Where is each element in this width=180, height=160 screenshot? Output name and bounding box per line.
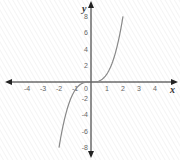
y-tick-label: -2 bbox=[82, 95, 88, 102]
y-tick-label: 6 bbox=[84, 29, 88, 36]
y-axis-up-arrow-icon bbox=[88, 1, 94, 8]
x-tick-label: 1 bbox=[105, 85, 109, 92]
y-tick-label: 2 bbox=[84, 62, 88, 69]
y-axis-down-arrow-icon bbox=[88, 151, 94, 158]
plot-area: -4-3-2-1012348642-2-4-6-8 x y bbox=[0, 0, 180, 160]
x-tick-label: -2 bbox=[56, 85, 62, 92]
y-axis-label: y bbox=[81, 3, 87, 14]
x-axis-left-arrow-icon bbox=[5, 79, 12, 85]
y-tick-label: -8 bbox=[82, 144, 88, 151]
x-tick-label: -4 bbox=[24, 85, 30, 92]
cubic-function-graph: -4-3-2-1012348642-2-4-6-8 x y bbox=[0, 0, 180, 160]
x-tick-label: 4 bbox=[153, 85, 157, 92]
x-tick-label: 2 bbox=[121, 85, 125, 92]
axes bbox=[5, 1, 178, 158]
y-tick-label: -6 bbox=[82, 128, 88, 135]
y-tick-label: 4 bbox=[84, 46, 88, 53]
origin-label: 0 bbox=[84, 85, 88, 92]
y-tick-label: -4 bbox=[82, 111, 88, 118]
x-axis-label: x bbox=[169, 84, 175, 95]
x-tick-label: -3 bbox=[40, 85, 46, 92]
x-tick-label: 3 bbox=[137, 85, 141, 92]
